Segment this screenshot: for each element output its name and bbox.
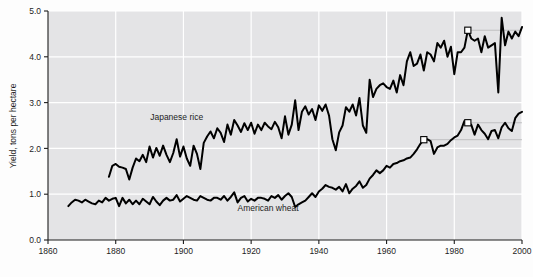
y-axis-title: Yield, tons per hectare (8, 83, 18, 168)
x-tick-label: 2000 (513, 246, 532, 256)
x-tick-label: 1860 (39, 246, 58, 256)
x-tick-label: 1960 (377, 246, 396, 256)
x-tick-label: 1880 (106, 246, 125, 256)
y-tick-label: 4.0 (29, 52, 41, 62)
y-axis-ticks: 0.01.02.03.04.05.0 (29, 6, 48, 245)
series-annotation: American wheat (238, 203, 300, 213)
x-tick-label: 1920 (242, 246, 261, 256)
y-tick-label: 5.0 (29, 6, 41, 16)
y-tick-label: 2.0 (29, 144, 41, 154)
series-annotation: Japanese rice (150, 112, 203, 122)
x-axis-ticks: 18601880190019201940196019802000 (39, 240, 532, 256)
yield-line-chart: 0.01.02.03.04.05.0 186018801900192019401… (0, 0, 533, 277)
figure-container: 0.01.02.03.04.05.0 186018801900192019401… (0, 0, 533, 277)
y-tick-label: 0.0 (29, 235, 41, 245)
x-tick-label: 1900 (174, 246, 193, 256)
x-tick-label: 1980 (445, 246, 464, 256)
y-tick-label: 1.0 (29, 189, 41, 199)
y-tick-label: 3.0 (29, 98, 41, 108)
x-tick-label: 1940 (309, 246, 328, 256)
